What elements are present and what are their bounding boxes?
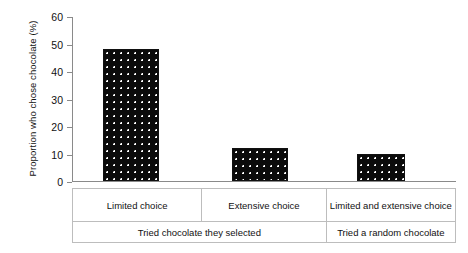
category-label-table: Limited choice Extensive choice Limited … (72, 188, 456, 243)
y-tick-20: 20 (72, 127, 73, 128)
y-axis-title: Proportion who chose chocolate (%) (27, 4, 38, 194)
plot-area: 0 10 20 30 40 50 60 (72, 17, 456, 182)
y-tick-label-20: 20 (51, 121, 63, 133)
group-label-0: Tried chocolate they selected (73, 222, 326, 242)
y-tick-label-0: 0 (57, 176, 63, 188)
y-tick-label-60: 60 (51, 11, 63, 23)
group-label-1: Tried a random chocolate (326, 222, 455, 242)
y-tick-label-40: 40 (51, 66, 63, 78)
group-label-row: Tried chocolate they selected Tried a ra… (73, 221, 455, 242)
category-label-0: Limited choice (73, 189, 201, 221)
y-tick-50: 50 (72, 45, 73, 46)
category-label-1: Extensive choice (201, 189, 325, 221)
y-tick-0: 0 (72, 182, 73, 183)
y-tick-10: 10 (72, 155, 73, 156)
y-tick-40: 40 (72, 72, 73, 73)
bar-limited-choice (103, 49, 159, 181)
y-tick-30: 30 (72, 100, 73, 101)
bar-limited-and-extensive-choice (357, 154, 405, 182)
category-label-row: Limited choice Extensive choice Limited … (73, 189, 455, 221)
category-label-2: Limited and extensive choice (326, 189, 455, 221)
y-tick-label-30: 30 (51, 94, 63, 106)
x-axis-line (72, 181, 456, 182)
y-tick-label-50: 50 (51, 39, 63, 51)
bar-chart-figure: Proportion who chose chocolate (%) 0 10 … (0, 0, 468, 253)
y-tick-label-10: 10 (51, 149, 63, 161)
y-tick-60: 60 (72, 17, 73, 18)
bar-extensive-choice (232, 148, 288, 181)
